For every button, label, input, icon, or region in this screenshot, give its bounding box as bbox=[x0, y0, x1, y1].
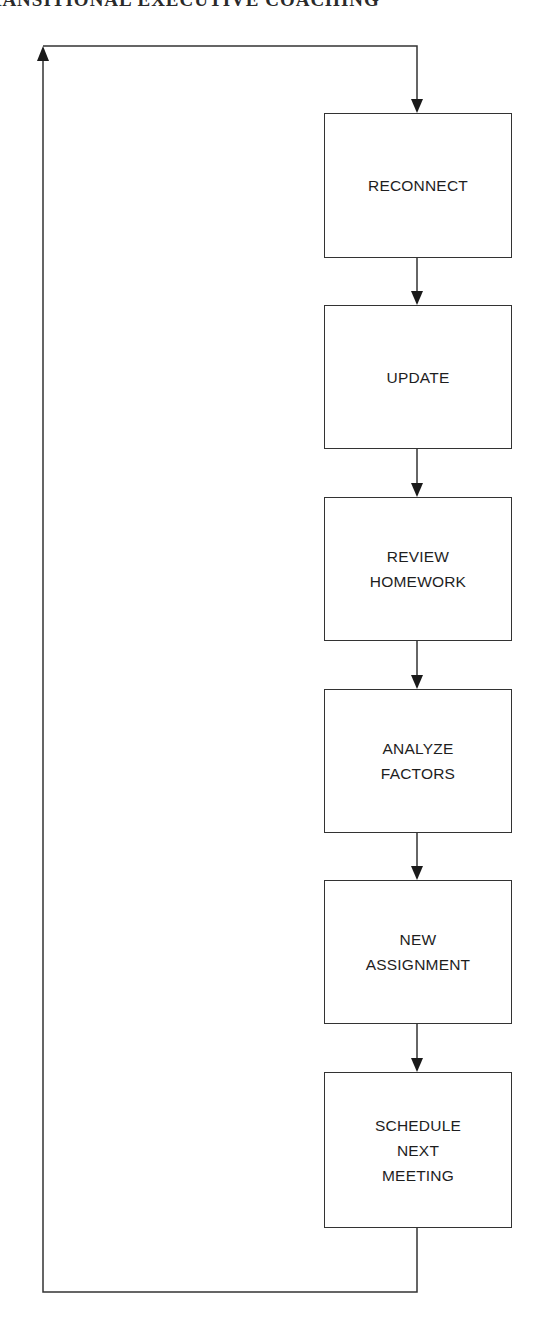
arrowhead-down-icon bbox=[411, 99, 423, 113]
step-label: ANALYZE FACTORS bbox=[381, 736, 455, 786]
step-review-homework: REVIEW HOMEWORK bbox=[324, 497, 512, 641]
step-label: UPDATE bbox=[387, 365, 450, 390]
loop-top-connector bbox=[43, 46, 417, 100]
step-update: UPDATE bbox=[324, 305, 512, 449]
step-analyze-factors: ANALYZE FACTORS bbox=[324, 689, 512, 833]
flowchart: RECONNECT UPDATE REVIEW HOMEWORK ANALYZE… bbox=[0, 0, 546, 1334]
step-reconnect: RECONNECT bbox=[324, 113, 512, 258]
step-label: REVIEW HOMEWORK bbox=[370, 544, 466, 594]
step-label: RECONNECT bbox=[368, 173, 468, 198]
arrowhead-down-icon bbox=[411, 483, 423, 497]
step-label: NEW ASSIGNMENT bbox=[366, 927, 470, 977]
arrowhead-up-icon bbox=[37, 46, 49, 61]
step-label: SCHEDULE NEXT MEETING bbox=[375, 1113, 461, 1188]
arrowhead-down-icon bbox=[411, 675, 423, 689]
arrowhead-down-icon bbox=[411, 866, 423, 880]
step-schedule-next-meeting: SCHEDULE NEXT MEETING bbox=[324, 1072, 512, 1228]
arrowhead-down-icon bbox=[411, 1058, 423, 1072]
arrowhead-down-icon bbox=[411, 291, 423, 305]
step-new-assignment: NEW ASSIGNMENT bbox=[324, 880, 512, 1024]
